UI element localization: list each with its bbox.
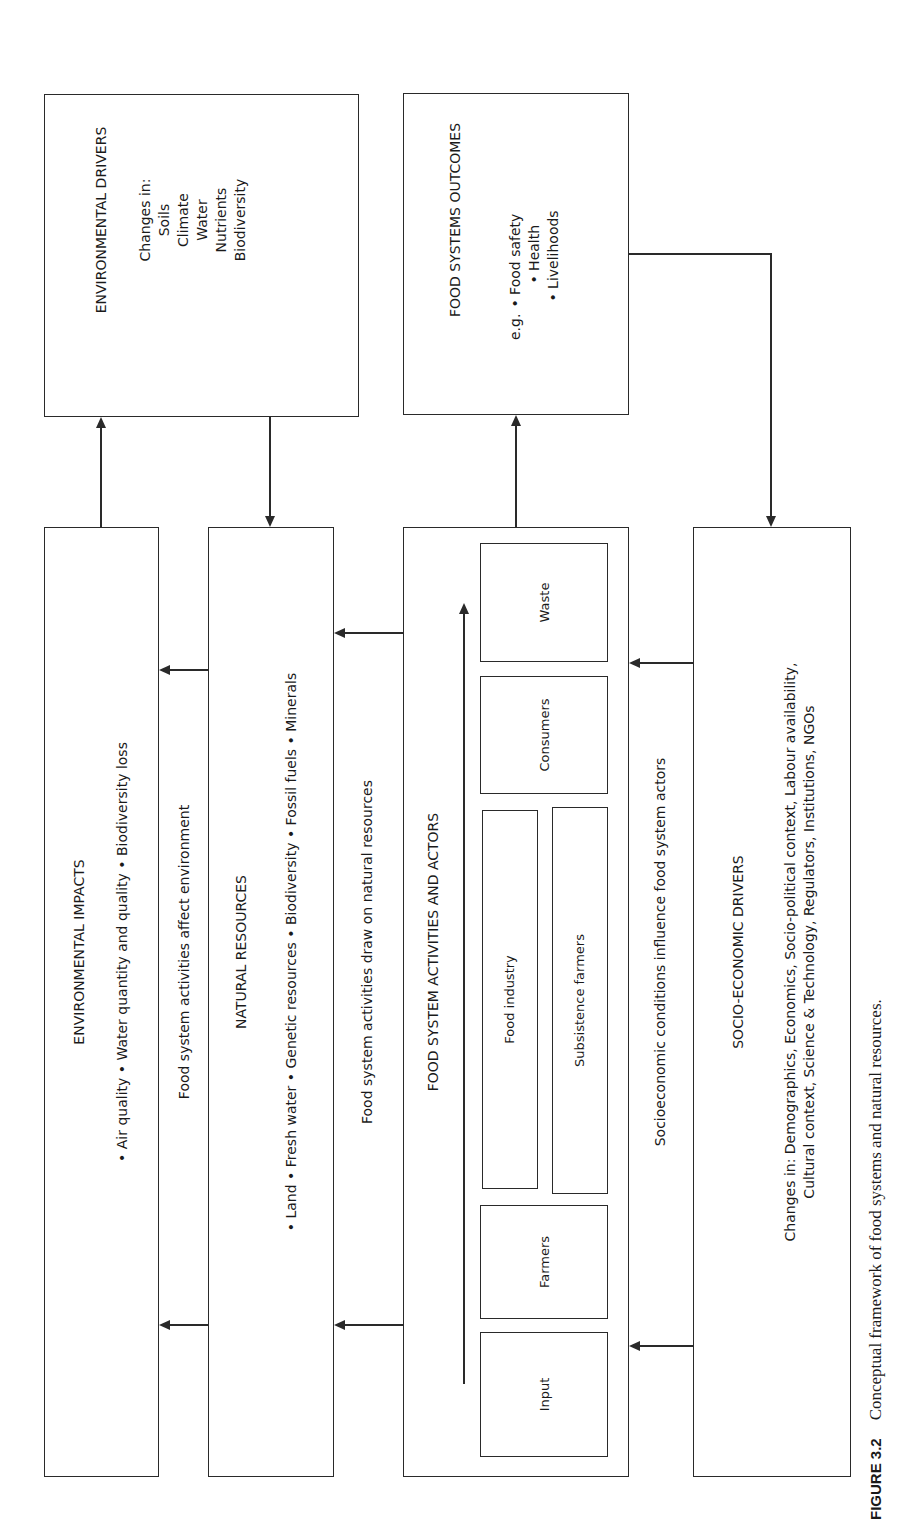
outcomes-prefix: e.g.	[506, 314, 563, 340]
figure-caption-text: Conceptual framework of food systems and…	[866, 999, 885, 1420]
connector-affect-env-bottom	[169, 1324, 209, 1326]
outcome-item: • Livelihoods	[544, 210, 563, 307]
natural-resources-title: NATURAL RESOURCES	[232, 602, 251, 1302]
flow-arrow-icon	[459, 603, 469, 614]
outcome-item: • Health	[525, 210, 544, 307]
env-drivers-line: Water	[193, 110, 212, 330]
actor-consumers-label: Consumers	[536, 676, 553, 794]
socio-economic-drivers-details: Changes in: Demographics, Economics, Soc…	[781, 602, 819, 1302]
connector-outcomes-down	[770, 253, 772, 516]
arrow-socio-top-icon	[629, 658, 640, 668]
environmental-drivers-list: Changes in: Soils Climate Water Nutrient…	[136, 110, 250, 330]
arrow-draw-bottom-icon	[334, 1320, 345, 1330]
connector-draw-top	[344, 632, 404, 634]
connector-env-drivers-to-resources	[269, 417, 271, 516]
environmental-impacts-title: ENVIRONMENTAL IMPACTS	[70, 602, 89, 1302]
arrow-affect-env-bottom-icon	[159, 1320, 170, 1330]
affect-environment-label: Food system activities affect environmen…	[175, 602, 194, 1302]
environmental-impacts-box	[44, 527, 159, 1477]
socio-economic-drivers-box	[693, 527, 851, 1477]
socio-drivers-line-2: Cultural context, Science & Technology, …	[800, 602, 819, 1302]
environmental-drivers-title: ENVIRONMENTAL DRIVERS	[92, 70, 111, 370]
figure-label: FIGURE 3.2	[867, 1438, 884, 1520]
actor-input-label: Input	[536, 1332, 553, 1457]
connector-activities-to-outcomes	[515, 426, 517, 527]
env-drivers-line: Climate	[174, 110, 193, 330]
connector-socio-top	[639, 662, 694, 664]
arrow-to-natural-resources-icon	[265, 516, 275, 527]
environmental-impacts-items: • Air quality • Water quantity and quali…	[113, 602, 132, 1302]
connector-outcomes-right	[628, 253, 771, 255]
env-drivers-line: Biodiversity	[231, 110, 250, 330]
arrow-affect-env-top-icon	[159, 665, 170, 675]
env-drivers-line: Soils	[155, 110, 174, 330]
connector-affect-env-top	[169, 669, 209, 671]
arrow-socio-bottom-icon	[629, 1341, 640, 1351]
socio-drivers-line-1: Changes in: Demographics, Economics, Soc…	[781, 602, 800, 1302]
natural-resources-items: • Land • Fresh water • Genetic resources…	[282, 602, 301, 1302]
food-systems-outcomes-title: FOOD SYSTEMS OUTCOMES	[446, 50, 465, 390]
actor-waste-label: Waste	[536, 543, 553, 662]
arrow-to-outcomes-icon	[511, 415, 521, 426]
actor-subsistence-farmers-label: Subsistence farmers	[571, 807, 588, 1194]
arrow-to-socio-drivers-icon	[766, 516, 776, 527]
connector-draw-bottom	[344, 1324, 404, 1326]
env-drivers-line: Nutrients	[212, 110, 231, 330]
food-system-activities-title: FOOD SYSTEM ACTIVITIES AND ACTORS	[424, 602, 443, 1302]
outcome-item: • Food safety	[506, 210, 525, 307]
natural-resources-box	[208, 527, 334, 1477]
draw-on-resources-label: Food system activities draw on natural r…	[358, 602, 377, 1302]
figure-caption: FIGURE 3.2Conceptual framework of food s…	[866, 720, 886, 1520]
env-drivers-line: Changes in:	[136, 110, 155, 330]
arrow-draw-top-icon	[334, 628, 345, 638]
socio-economic-drivers-title: SOCIO-ECONOMIC DRIVERS	[729, 602, 748, 1302]
food-systems-outcomes-list: e.g. • Food safety • Health • Livelihood…	[506, 160, 563, 340]
actor-farmers-label: Farmers	[536, 1205, 553, 1319]
connector-impacts-to-env-drivers	[100, 428, 102, 527]
flow-line	[463, 612, 465, 1384]
socio-influence-label: Socioeconomic conditions influence food …	[651, 602, 670, 1302]
connector-socio-bottom	[639, 1345, 694, 1347]
arrow-to-env-drivers-icon	[96, 417, 106, 428]
actor-food-industry-label: Food industry	[501, 810, 518, 1189]
